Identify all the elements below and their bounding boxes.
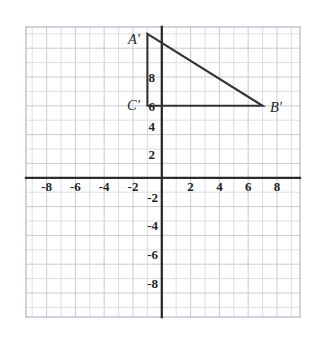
- coordinate-plane-figure: -8 -6 -4 -2 2 4 6 8 8 6 4 2 -2 -4 -6 -8 …: [0, 0, 323, 344]
- x-tick-label: 4: [216, 179, 223, 194]
- coordinate-plane-svg: -8 -6 -4 -2 2 4 6 8 8 6 4 2 -2 -4 -6 -8 …: [0, 0, 323, 344]
- vertex-label-a-prime: A': [127, 31, 141, 47]
- x-tick-label: 6: [245, 179, 252, 194]
- y-tick-label: -2: [147, 190, 158, 205]
- plot-background: [26, 27, 300, 317]
- x-tick-label: 8: [274, 179, 281, 194]
- y-tick-label: 8: [149, 70, 156, 85]
- x-tick-label: 2: [187, 179, 194, 194]
- vertex-label-b-prime: B': [270, 99, 283, 115]
- y-tick-label: 2: [149, 147, 156, 162]
- y-tick-label: -4: [147, 218, 158, 233]
- x-tick-label: -2: [128, 179, 139, 194]
- vertex-label-c-prime: C': [127, 97, 141, 113]
- y-tick-label: -8: [147, 276, 158, 291]
- x-tick-label: -6: [70, 179, 81, 194]
- y-tick-label: 6: [149, 99, 156, 114]
- y-tick-label: 4: [149, 119, 156, 134]
- y-tick-label: -6: [147, 247, 158, 262]
- x-tick-label: -4: [99, 179, 110, 194]
- x-tick-label: -8: [41, 179, 52, 194]
